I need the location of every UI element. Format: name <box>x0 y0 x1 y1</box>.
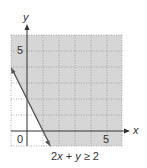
y-axis-arrow-icon <box>25 24 30 30</box>
x-tick-label: 5 <box>103 134 109 145</box>
x-axis-label: x <box>133 125 139 136</box>
inequality-caption: 2x + y ≥ 2 <box>30 150 120 162</box>
x-axis-arrow-icon <box>124 129 130 134</box>
y-axis-label: y <box>23 12 29 23</box>
origin-label: 0 <box>17 134 23 145</box>
y-tick-label: 5 <box>17 45 23 56</box>
